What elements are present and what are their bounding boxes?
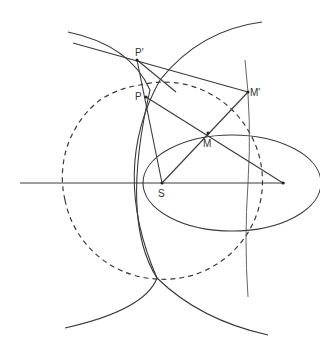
label-s: S xyxy=(158,188,165,199)
label-m-prime: M' xyxy=(250,87,260,98)
dashed-circle xyxy=(62,82,262,279)
point-s xyxy=(161,182,164,185)
arc-through-m-prime xyxy=(245,60,249,297)
point-p-prime xyxy=(136,59,139,62)
point-p xyxy=(145,96,148,99)
geometry-diagram: P' P M M' S xyxy=(0,0,320,351)
line-p-prime-m-prime xyxy=(73,43,248,92)
point-focus-2 xyxy=(282,182,285,185)
label-m: M xyxy=(203,138,211,149)
point-m xyxy=(207,132,210,135)
label-p: P xyxy=(135,91,142,102)
line-p-focus2 xyxy=(146,97,283,183)
label-p-prime: P' xyxy=(135,47,144,58)
